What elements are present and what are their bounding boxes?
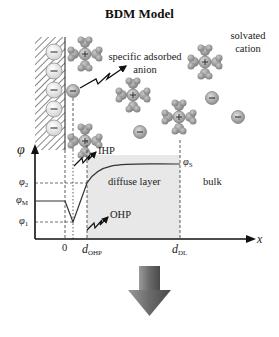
x-tick-d-dl: dDL bbox=[172, 243, 187, 257]
d-dl-sub: DL bbox=[178, 249, 187, 257]
ihp-label: IHP bbox=[98, 146, 115, 157]
phi-2-label: φ2 bbox=[19, 177, 28, 189]
phi-1-label: φ1 bbox=[19, 216, 28, 228]
down-arrow-icon bbox=[128, 266, 171, 316]
x-tick-zero: 0 bbox=[62, 243, 67, 254]
diffuse-layer-region bbox=[87, 155, 180, 238]
y-axis-label: φ bbox=[17, 143, 25, 157]
x-axis-label: x bbox=[257, 233, 262, 245]
electrode-anion-icon bbox=[46, 44, 62, 136]
phi-1-sub: 1 bbox=[25, 220, 29, 228]
x-tick-zero-symbol: 0 bbox=[62, 242, 67, 253]
bulk-label: bulk bbox=[203, 177, 222, 188]
diffuse-layer-label: diffuse layer bbox=[108, 177, 161, 188]
solvated-label: solvated cation bbox=[226, 31, 270, 54]
phi-2-sub: 2 bbox=[25, 181, 29, 189]
phi-m-label: φM bbox=[16, 195, 28, 207]
specific-adsorbed-label-line1: specific adsorbed bbox=[108, 52, 182, 63]
ohp-label: OHP bbox=[110, 210, 131, 221]
phi-m-sub: M bbox=[22, 199, 28, 207]
solvated-label-line1: solvated bbox=[226, 31, 270, 42]
solvated-label-line2: cation bbox=[226, 44, 270, 55]
x-tick-d-ohp: dOHP bbox=[82, 243, 102, 257]
specific-adsorbed-label-line2: anion bbox=[108, 65, 182, 76]
d-ohp-sub: OHP bbox=[88, 249, 102, 257]
phi-s-sub: S bbox=[189, 161, 193, 169]
phi-s-label: φS bbox=[183, 157, 193, 169]
specific-adsorbed-anion-icon bbox=[67, 85, 80, 98]
specific-adsorbed-label: specific adsorbed anion bbox=[108, 52, 182, 75]
